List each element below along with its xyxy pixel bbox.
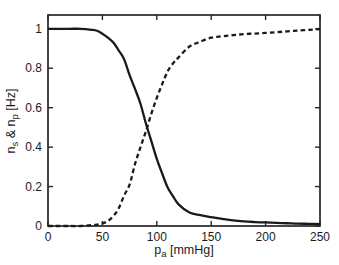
x-axis-label: pa [mmHg] [154,243,213,259]
x-tick-label: 200 [256,230,276,244]
y-tick-label: 0.6 [25,101,42,115]
x-tick-label: 100 [147,230,167,244]
chart-canvas: 05010015020025000.20.40.60.81pa [mmHg]ns… [0,0,339,265]
solid-curve-ns [48,29,320,224]
y-tick-label: 0 [35,219,42,233]
y-tick-label: 0.2 [25,180,42,194]
dashed-curve-np [48,29,320,226]
y-tick-label: 0.8 [25,61,42,75]
y-tick-label: 1 [35,22,42,36]
x-tick-label: 250 [310,230,330,244]
x-tick-label: 0 [45,230,52,244]
x-tick-label: 50 [96,230,110,244]
x-tick-label: 150 [201,230,221,244]
y-axis-label: ns & np [Hz] [4,89,20,154]
y-tick-label: 0.4 [25,140,42,154]
sigmoid-curves-figure: 05010015020025000.20.40.60.81pa [mmHg]ns… [0,0,339,265]
plot-box [48,15,320,226]
